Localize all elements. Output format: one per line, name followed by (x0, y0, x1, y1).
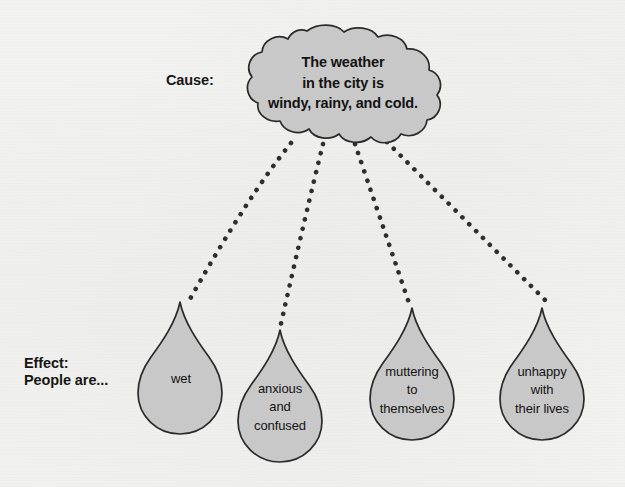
connector-dotted-lines (190, 142, 545, 328)
effect-droplet-3-shape (370, 308, 454, 440)
effect-label: Effect: People are... (24, 355, 108, 389)
cause-label: Cause: (166, 72, 214, 89)
diagram-vector-layer (0, 0, 625, 487)
effect-droplet-1-shape (138, 302, 222, 434)
connector-line-4 (387, 142, 545, 300)
connector-line-2 (280, 144, 323, 328)
effect-droplet-2-shape (238, 330, 322, 462)
diagram-canvas: Cause: Effect: People are... The weather… (0, 0, 625, 487)
effect-droplet-4-shape (500, 308, 584, 440)
connector-line-3 (355, 144, 409, 303)
connector-line-1 (190, 143, 291, 299)
cause-cloud-shape (247, 25, 440, 143)
